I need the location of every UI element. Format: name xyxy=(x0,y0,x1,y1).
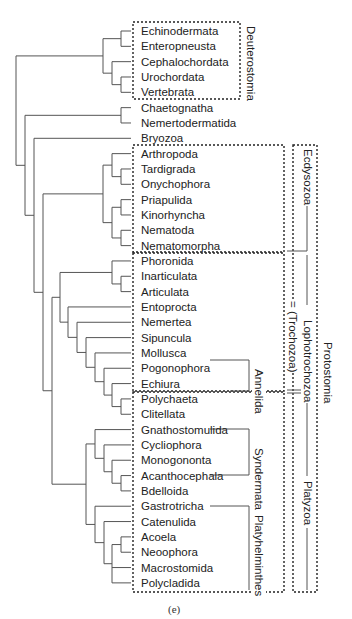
taxon-label: Neoophora xyxy=(141,545,198,559)
taxon-label: Macrostomida xyxy=(141,561,213,575)
taxon-label: Echinodermata xyxy=(141,24,218,38)
taxon-label: Gnathostomulida xyxy=(141,423,228,437)
label-lophotrochozoa: Lophotrochozoa xyxy=(301,319,315,403)
label-annelida: Annelida xyxy=(252,368,266,415)
taxon-label: Acoela xyxy=(141,530,176,544)
taxon-label: Urochordata xyxy=(141,70,204,84)
taxon-label: Clitellata xyxy=(141,407,185,421)
figure-caption: (e) xyxy=(168,603,180,615)
taxon-label: Vertebrata xyxy=(141,85,194,99)
taxon-label: Chaetognatha xyxy=(141,101,213,115)
taxon-label: Polychaeta xyxy=(141,392,198,406)
label-protostomia: Protostomia xyxy=(321,341,335,404)
taxon-label: Polycladida xyxy=(141,576,200,590)
taxon-label: Pogonophora xyxy=(141,361,210,375)
taxon-label: Monogononta xyxy=(141,453,211,467)
taxon-label: Cephalochordata xyxy=(141,55,229,69)
tree-branches xyxy=(16,31,131,583)
taxon-label: Onychophora xyxy=(141,177,210,191)
taxon-label: Entoprocta xyxy=(141,300,197,314)
taxon-label: Cycliophora xyxy=(141,438,202,452)
label-platyzoa: Platyzoa xyxy=(301,480,315,526)
taxon-label: Priapulida xyxy=(141,193,192,207)
taxon-label: Nematoda xyxy=(141,223,194,237)
taxon-label: Nemertea xyxy=(141,315,192,329)
taxon-label: Nematomorpha xyxy=(141,239,220,253)
taxon-label: Arthropoda xyxy=(141,147,198,161)
taxon-label: Bryozoa xyxy=(141,131,183,145)
taxon-label: Phoronida xyxy=(141,254,193,268)
taxon-label: Mollusca xyxy=(141,346,186,360)
taxon-label: Inarticulata xyxy=(141,269,197,283)
label-platyhelminthes: Platyhelminthes xyxy=(252,514,266,597)
label-trochozoa: = (Trochozoa) xyxy=(286,300,300,373)
label-syndermata: Syndermata xyxy=(252,447,266,511)
taxon-label: Kinorhyncha xyxy=(141,208,205,222)
taxon-label: Tardigrada xyxy=(141,162,195,176)
taxon-label: Echiura xyxy=(141,377,180,391)
taxon-label: Sipuncula xyxy=(141,331,192,345)
taxon-label: Bdelloida xyxy=(141,484,188,498)
taxon-label: Articulata xyxy=(141,285,189,299)
label-deuterostomia: Deuterostomia xyxy=(244,25,258,102)
taxon-label: Gastrotricha xyxy=(141,499,204,513)
taxon-label: Acanthocephala xyxy=(141,469,223,483)
taxon-label: Nemertodermatida xyxy=(141,116,236,130)
label-ecdysozoa: Ecdysozoa xyxy=(301,148,315,206)
taxon-label: Catenulida xyxy=(141,515,196,529)
taxon-label: Enteropneusta xyxy=(141,39,216,53)
